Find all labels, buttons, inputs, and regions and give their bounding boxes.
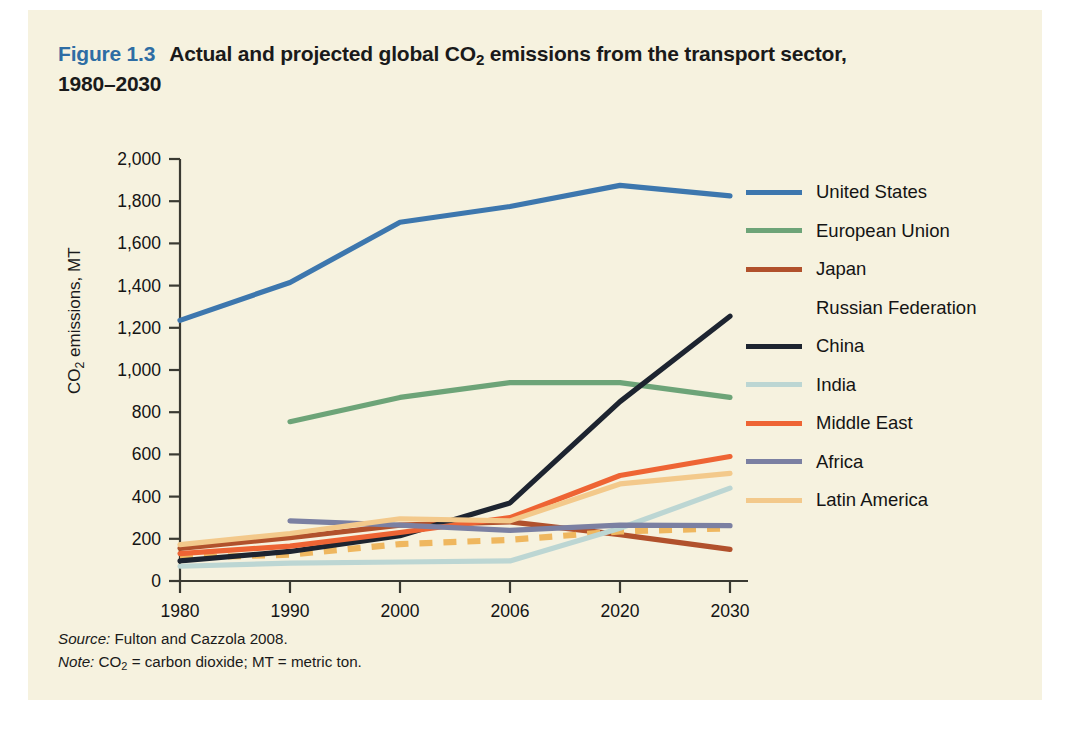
y-tick-label: 200 <box>83 528 161 549</box>
y-tick-label: 600 <box>83 444 161 465</box>
y-tick-label: 400 <box>83 486 161 507</box>
legend-label: China <box>816 335 864 357</box>
legend-label: Russian Federation <box>816 297 976 319</box>
legend-swatch-icon <box>746 382 802 387</box>
legend-label: European Union <box>816 220 950 242</box>
legend-label: Japan <box>816 258 866 280</box>
note-label: Note: <box>58 653 94 670</box>
x-tick-label: 1990 <box>245 601 335 622</box>
legend-swatch-icon <box>746 459 802 464</box>
source-text: Fulton and Cazzola 2008. <box>110 630 287 647</box>
legend-item-european-union[interactable]: European Union <box>746 212 976 251</box>
legend-label: India <box>816 374 856 396</box>
y-tick-label: 2,000 <box>83 149 161 170</box>
legend-swatch-icon <box>746 305 802 310</box>
series-line-latin-america <box>180 473 730 544</box>
legend-swatch-icon <box>746 421 802 426</box>
chart-legend: United StatesEuropean UnionJapanRussian … <box>746 173 976 520</box>
legend-item-china[interactable]: China <box>746 327 976 366</box>
note-text-post: = carbon dioxide; MT = metric ton. <box>127 653 361 670</box>
y-tick-label: 1,800 <box>83 191 161 212</box>
x-tick-label: 2020 <box>575 601 665 622</box>
y-tick-label: 1,000 <box>83 360 161 381</box>
y-tick-label: 0 <box>83 571 161 592</box>
legend-swatch-icon <box>746 190 802 195</box>
legend-swatch-icon <box>746 267 802 272</box>
legend-label: Latin America <box>816 489 928 511</box>
legend-swatch-icon <box>746 498 802 503</box>
legend-swatch-icon <box>746 228 802 233</box>
legend-label: Africa <box>816 451 863 473</box>
note-line: Note: CO2 = carbon dioxide; MT = metric … <box>58 651 362 674</box>
legend-label: United States <box>816 181 927 203</box>
figure-panel: Figure 1.3Actual and projected global CO… <box>28 10 1042 700</box>
figure-footnotes: Source: Fulton and Cazzola 2008. Note: C… <box>58 628 362 674</box>
series-line-european-union <box>290 383 730 422</box>
legend-swatch-icon <box>746 344 802 349</box>
y-tick-label: 1,400 <box>83 275 161 296</box>
y-tick-label: 1,200 <box>83 317 161 338</box>
y-tick-label: 800 <box>83 402 161 423</box>
legend-item-india[interactable]: India <box>746 366 976 405</box>
legend-item-united-states[interactable]: United States <box>746 173 976 212</box>
legend-item-japan[interactable]: Japan <box>746 250 976 289</box>
legend-item-russian-federation[interactable]: Russian Federation <box>746 289 976 328</box>
legend-item-latin-america[interactable]: Latin America <box>746 481 976 520</box>
note-text-pre: CO <box>94 653 121 670</box>
series-line-united-states <box>180 185 730 320</box>
legend-item-africa[interactable]: Africa <box>746 443 976 482</box>
x-tick-label: 2030 <box>685 601 775 622</box>
x-tick-label: 2000 <box>355 601 445 622</box>
source-line: Source: Fulton and Cazzola 2008. <box>58 628 362 651</box>
legend-label: Middle East <box>816 412 913 434</box>
legend-item-middle-east[interactable]: Middle East <box>746 404 976 443</box>
source-label: Source: <box>58 630 110 647</box>
y-tick-label: 1,600 <box>83 233 161 254</box>
x-tick-label: 1980 <box>135 601 225 622</box>
x-tick-label: 2006 <box>465 601 555 622</box>
